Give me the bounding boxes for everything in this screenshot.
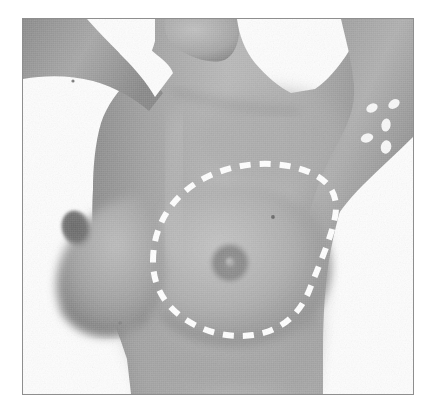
photograph-svg [23,19,413,394]
figure-frame: Grayscale clinical photograph of a femal… [22,18,414,395]
film-grain [23,19,413,394]
clinical-photograph [23,19,413,394]
figure-page: Grayscale clinical photograph of a femal… [0,0,434,408]
